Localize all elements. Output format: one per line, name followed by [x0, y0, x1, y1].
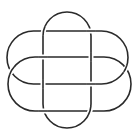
knot-diagram [0, 0, 140, 140]
